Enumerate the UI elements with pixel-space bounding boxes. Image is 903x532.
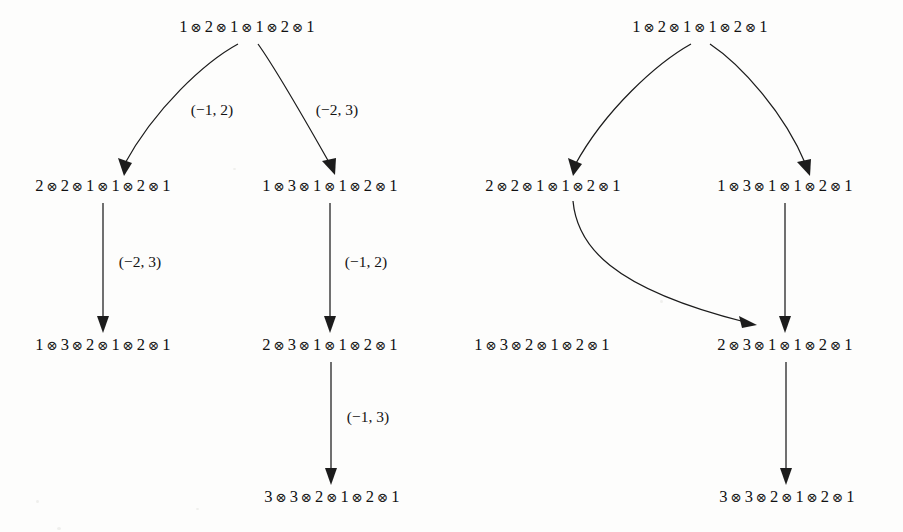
tensor-term: 3 <box>288 176 297 195</box>
tensor-term: 1 <box>717 176 726 195</box>
tensor-term: 1 <box>306 17 315 36</box>
tensor-term: 3 <box>500 335 509 354</box>
tensor-symbol: ⊗ <box>148 179 160 194</box>
node-R3: 1⊗3⊗2⊗1⊗2⊗1 <box>474 335 609 355</box>
node-L3: 1⊗3⊗2⊗1⊗2⊗1 <box>35 335 170 355</box>
tensor-term: 1 <box>632 17 641 36</box>
tensor-term: 1 <box>844 335 853 354</box>
tensor-term: 1 <box>389 335 398 354</box>
edge-label-L0-L2: (−2, 3) <box>316 101 358 119</box>
tensor-term: 1 <box>255 17 264 36</box>
tensor-symbol: ⊗ <box>694 20 706 35</box>
tensor-symbol: ⊗ <box>190 20 202 35</box>
tensor-symbol: ⊗ <box>756 490 768 505</box>
tensor-term: 1 <box>313 176 322 195</box>
tensor-symbol: ⊗ <box>301 490 313 505</box>
tensor-term: 1 <box>262 176 271 195</box>
tensor-symbol: ⊗ <box>350 179 362 194</box>
tensor-term: 1 <box>35 335 44 354</box>
tensor-term: 1 <box>179 17 188 36</box>
tensor-term: 1 <box>536 176 545 195</box>
scan-speck <box>57 527 61 530</box>
tensor-term: 1 <box>793 335 802 354</box>
tensor-symbol: ⊗ <box>267 20 279 35</box>
tensor-symbol: ⊗ <box>324 338 336 353</box>
tensor-symbol: ⊗ <box>46 338 58 353</box>
tensor-term: 1 <box>474 335 483 354</box>
tensor-term: 1 <box>389 176 398 195</box>
edge-label-L2-L4: (−1, 2) <box>345 253 387 271</box>
arrow-L1-to-L3 <box>97 203 109 333</box>
node-R2: 1⊗3⊗1⊗1⊗2⊗1 <box>717 176 852 196</box>
tensor-term: 1 <box>230 17 239 36</box>
tensor-term: 1 <box>683 17 692 36</box>
tensor-symbol: ⊗ <box>720 20 732 35</box>
node-R5: 3⊗3⊗2⊗1⊗2⊗1 <box>719 487 854 507</box>
tensor-symbol: ⊗ <box>547 179 559 194</box>
node-L2: 1⊗3⊗1⊗1⊗2⊗1 <box>262 176 397 196</box>
tensor-symbol: ⊗ <box>730 490 742 505</box>
node-L0: 1⊗2⊗1⊗1⊗2⊗1 <box>179 17 314 37</box>
tensor-symbol: ⊗ <box>669 20 681 35</box>
node-R0: 1⊗2⊗1⊗1⊗2⊗1 <box>632 17 767 37</box>
tensor-symbol: ⊗ <box>273 179 285 194</box>
tensor-term: 1 <box>708 17 717 36</box>
tensor-symbol: ⊗ <box>123 179 135 194</box>
tensor-term: 2 <box>525 335 534 354</box>
arrow-R2-to-R4 <box>779 203 791 333</box>
tensor-symbol: ⊗ <box>781 490 793 505</box>
tensor-term: 3 <box>290 487 299 506</box>
tensor-symbol: ⊗ <box>496 179 508 194</box>
tensor-symbol: ⊗ <box>292 20 304 35</box>
arrow-L2-to-L4 <box>324 203 336 333</box>
tensor-symbol: ⊗ <box>241 20 253 35</box>
tensor-term: 2 <box>364 176 373 195</box>
tensor-term: 1 <box>313 335 322 354</box>
tensor-term: 1 <box>340 487 349 506</box>
tensor-term: 2 <box>364 335 373 354</box>
arrow-R0-to-R1 <box>568 44 691 176</box>
tensor-term: 1 <box>162 176 171 195</box>
tensor-symbol: ⊗ <box>216 20 228 35</box>
tensor-term: 1 <box>162 335 171 354</box>
tensor-term: 1 <box>795 487 804 506</box>
tensor-symbol: ⊗ <box>377 490 389 505</box>
tensor-symbol: ⊗ <box>830 338 842 353</box>
tensor-term: 3 <box>745 487 754 506</box>
tensor-term: 2 <box>281 17 290 36</box>
tensor-term: 2 <box>485 176 494 195</box>
tensor-term: 1 <box>793 176 802 195</box>
node-L4: 2⊗3⊗1⊗1⊗2⊗1 <box>262 335 397 355</box>
tensor-term: 2 <box>315 487 324 506</box>
tensor-term: 2 <box>587 176 596 195</box>
tensor-symbol: ⊗ <box>72 338 84 353</box>
tensor-term: 2 <box>770 487 779 506</box>
tensor-symbol: ⊗ <box>324 179 336 194</box>
node-L1: 2⊗2⊗1⊗1⊗2⊗1 <box>35 176 170 196</box>
tensor-term: 2 <box>61 176 70 195</box>
tensor-term: 2 <box>205 17 214 36</box>
tensor-term: 1 <box>391 487 400 506</box>
tensor-symbol: ⊗ <box>754 338 766 353</box>
tensor-term: 1 <box>338 176 347 195</box>
scan-speck <box>660 300 663 303</box>
tensor-symbol: ⊗ <box>375 338 387 353</box>
tensor-term: 2 <box>576 335 585 354</box>
tensor-term: 2 <box>35 176 44 195</box>
node-R1: 2⊗2⊗1⊗1⊗2⊗1 <box>485 176 620 196</box>
tensor-term: 1 <box>612 176 621 195</box>
tensor-symbol: ⊗ <box>72 179 84 194</box>
tensor-symbol: ⊗ <box>275 490 287 505</box>
tensor-term: 3 <box>743 176 752 195</box>
edge-label-L0-L1: (−1, 2) <box>191 101 233 119</box>
tensor-symbol: ⊗ <box>805 179 817 194</box>
tensor-term: 2 <box>658 17 667 36</box>
tensor-term: 1 <box>338 335 347 354</box>
edge-label-L4-L5: (−1, 3) <box>347 408 389 426</box>
tensor-term: 1 <box>844 176 853 195</box>
tensor-symbol: ⊗ <box>745 20 757 35</box>
node-R4: 2⊗3⊗1⊗1⊗2⊗1 <box>717 335 852 355</box>
tensor-symbol: ⊗ <box>536 338 548 353</box>
arrow-L4-to-L5 <box>325 362 337 485</box>
tensor-term: 2 <box>819 335 828 354</box>
